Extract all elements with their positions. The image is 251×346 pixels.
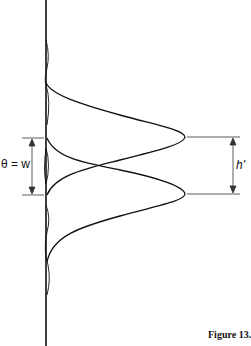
w-label: θ = w [1,157,30,171]
h-prime-dimension [187,137,240,194]
lower-peak-curve [47,138,185,262]
figure-caption: Figure 13.13 In [208,329,251,340]
upper-peak-curve [46,83,185,195]
diffraction-profile-diagram [0,0,251,346]
h-prime-label: h' [236,158,245,172]
